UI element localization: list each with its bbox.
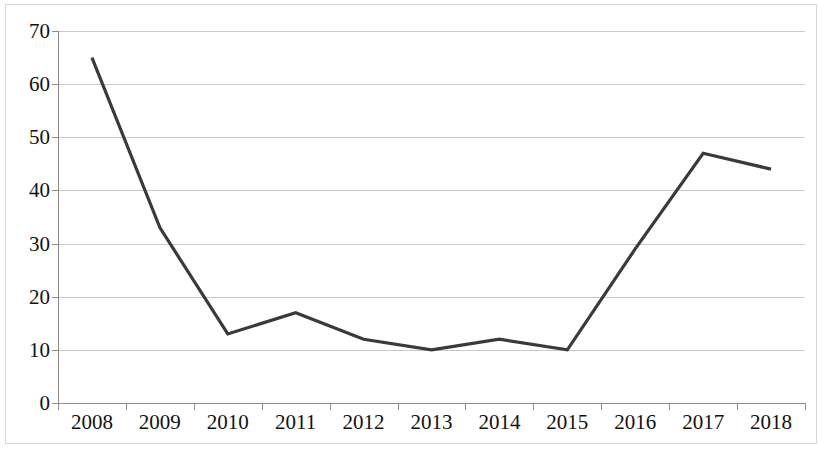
chart-figure: 010203040506070 200820092010201120122013…: [0, 0, 824, 450]
series-layer: [0, 0, 824, 450]
series-line: [92, 58, 771, 350]
